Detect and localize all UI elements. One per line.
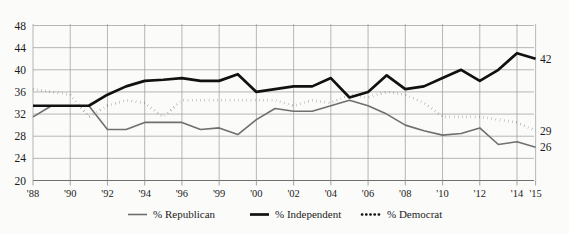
end-value-label: 26 <box>540 141 552 153</box>
legend-label: % Independent <box>275 208 341 220</box>
y-axis-tick-label: 24 <box>15 152 27 164</box>
x-axis-tick-label: '88 <box>27 188 39 199</box>
y-axis-tick-label: 32 <box>15 108 27 120</box>
x-axis-tick-label: '08 <box>399 188 411 199</box>
x-axis-labels: '88'90'92'94'96'99'00'02'04'06'08'10'12'… <box>27 188 542 199</box>
end-value-label: 29 <box>540 125 552 137</box>
legend-label: % Republican <box>153 208 216 220</box>
x-axis-ticks <box>33 181 536 186</box>
series-line-independent <box>33 53 536 106</box>
x-axis-tick-label: '00 <box>250 188 262 199</box>
x-axis-tick-label: '92 <box>101 188 113 199</box>
x-axis-tick-label: '99 <box>213 188 225 199</box>
y-axis-labels: 2024283236404448 <box>15 20 27 187</box>
x-axis-tick-label: '12 <box>474 188 486 199</box>
legend-label: % Democrat <box>387 208 442 220</box>
x-axis-tick-label: '90 <box>64 188 76 199</box>
chart-canvas: 2024283236404448 '88'90'92'94'96'99'00'0… <box>0 0 569 234</box>
y-axis-tick-label: 20 <box>15 175 27 187</box>
y-axis-tick-label: 40 <box>15 64 27 76</box>
x-axis-tick-label: '04 <box>325 188 338 199</box>
end-value-label: 42 <box>540 53 552 65</box>
series-line-republican <box>33 100 536 147</box>
x-axis-tick-label: '94 <box>138 188 151 199</box>
grid-layer <box>33 24 536 181</box>
chart-legend: % Republican% Independent% Democrat <box>128 208 442 220</box>
y-axis-tick-label: 28 <box>15 130 27 142</box>
x-axis-tick-label: '02 <box>287 188 299 199</box>
x-axis-tick-label: '14 <box>511 188 524 199</box>
x-axis-tick-label: '10 <box>436 188 448 199</box>
y-axis-tick-label: 48 <box>15 20 27 32</box>
y-axis-tick-label: 36 <box>15 86 27 98</box>
end-value-labels: 264229 <box>540 53 552 154</box>
series-layer <box>33 53 536 147</box>
x-axis-tick-label: '15 <box>529 188 541 199</box>
y-axis-tick-label: 44 <box>15 42 27 54</box>
party-affiliation-line-chart: 2024283236404448 '88'90'92'94'96'99'00'0… <box>0 0 569 234</box>
x-axis-tick-label: '06 <box>362 188 374 199</box>
x-axis-tick-label: '96 <box>176 188 188 199</box>
